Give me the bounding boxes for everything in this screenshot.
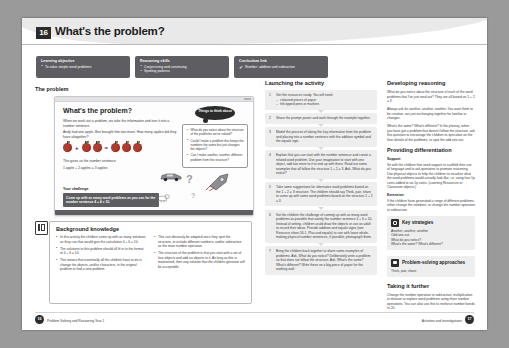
flow-arrow-icon: [318, 147, 324, 150]
panel-intro: When we work out a problem, we take the …: [63, 119, 178, 128]
learning-objective-heading: Learning objective: [41, 59, 125, 63]
plus-sign: +: [75, 145, 79, 151]
reasoning-paragraph: Always ask for another, another, another…: [387, 107, 475, 121]
list-item: Could I make a problem that keeps the nu…: [187, 139, 244, 152]
list-item: Can I make another, another, different p…: [187, 153, 244, 161]
question-mark-doodle-small: ?: [191, 192, 195, 199]
list-item: In this activity the children come up wi…: [56, 235, 147, 244]
support-heading: Support: [387, 157, 475, 161]
key-strategies-list: Another, another, another Odd one out Wh…: [391, 229, 471, 247]
step-number: 3: [269, 130, 273, 144]
step-text: Bring the children back together to shar…: [276, 249, 373, 272]
key-strategies-icon: [391, 219, 399, 227]
step-number: 6: [269, 213, 273, 240]
challenge-heading: Your challenge: [63, 187, 89, 191]
step-item: 6 Set the children the challenge of comi…: [265, 210, 377, 243]
apple-icon: [111, 143, 120, 152]
step-number: 4: [269, 153, 273, 176]
apple-icon: [122, 143, 131, 152]
step-item: 5 Take some suggestions for alternative …: [265, 182, 377, 206]
car-illustration: [159, 171, 183, 182]
question-mark-doodle: ?: [186, 173, 193, 185]
footer-text-right: Activities and investigations: [422, 319, 462, 323]
step-text: Share the prompt poster and work through…: [276, 116, 373, 121]
equals-sign: =: [105, 145, 109, 151]
apple-equation: + =: [63, 143, 142, 152]
list-item: What do you notice about the structure o…: [187, 128, 244, 136]
problem-section-label: The problem: [35, 86, 69, 92]
approaches-header: Problem-solving approaches: [391, 259, 471, 267]
list-item: Think, pair, share: [391, 269, 471, 273]
curriculum-link-box: Curriculum link ✓ Number: addition and s…: [234, 56, 328, 78]
approaches-heading: Problem-solving approaches: [402, 260, 465, 265]
differentiation-heading: Providing differentiation: [387, 147, 475, 153]
list-item: This means that essentially all the chil…: [56, 258, 147, 272]
reasoning-paragraph: What do you notice about the structure o…: [387, 90, 475, 104]
apple-icon: [93, 143, 102, 152]
taking-further-heading: Taking it further: [387, 283, 475, 289]
page-number-left: 16: [35, 315, 44, 324]
number-sentence-label: This gives us the number sentence:: [63, 159, 117, 163]
header-divider: [22, 44, 487, 45]
unit-number-badge: 16: [36, 27, 51, 39]
think-about-list-box: What do you notice about the structure o…: [182, 124, 248, 168]
list-item: What's the same? What's different?: [391, 242, 471, 246]
reasoning-skills-item: Spotting patterns: [140, 69, 224, 73]
background-knowledge-heading: Background knowledge: [56, 226, 245, 232]
page-number-right: 17: [465, 315, 474, 324]
curriculum-link-text: Number: addition and subtraction: [245, 65, 295, 69]
step-item: 7 Bring the children back together to sh…: [265, 246, 377, 275]
apple-icon: [133, 143, 142, 152]
reasoning-paragraph: What's the same? What's different? In th…: [387, 124, 475, 142]
curriculum-link-heading: Curriculum link: [239, 59, 323, 63]
footer-text-left: Problem Solving and Reasoning Year 1: [47, 319, 104, 323]
background-knowledge-column-1: In this activity the children come up wi…: [56, 235, 147, 274]
key-strategies-heading: Key strategies: [402, 220, 433, 225]
step-number: 7: [269, 249, 273, 272]
step-text: Get the resources ready. You will need: …: [276, 93, 373, 107]
learning-objective-box: Learning objective To solve simple word …: [36, 56, 130, 78]
tick-icon: ✓: [239, 65, 243, 70]
book-icon: [35, 221, 48, 235]
key-strategies-box: Key strategies Another, another, another…: [387, 216, 475, 250]
curriculum-link-item: ✓ Number: addition and subtraction: [239, 65, 323, 69]
think-about-bubble-group: Things to think about What do you notice…: [182, 106, 248, 168]
think-about-list: What do you notice about the structure o…: [187, 128, 244, 162]
step-text: Set the children the challenge of coming…: [276, 213, 373, 240]
step-item: 3 Model the process of taking the key in…: [265, 127, 377, 147]
reasoning-skills-heading: Reasoning skills: [140, 59, 224, 63]
step-text: Explain that you can start with the numb…: [276, 153, 373, 176]
background-knowledge-column-2: This can obviously be adapted once they …: [154, 235, 245, 274]
flow-arrow-icon: [318, 207, 324, 210]
list-item: The structure of the problem is that you…: [154, 251, 245, 269]
taking-further-text: Change the number operation to subtracti…: [387, 293, 475, 311]
panel-top-bar: [55, 97, 253, 102]
extension-heading: Extension: [387, 193, 475, 197]
flow-arrow-icon: [318, 110, 324, 113]
flow-arrow-icon: [318, 243, 324, 246]
flow-arrow-icon: [318, 124, 324, 127]
step-text: Take some suggestions for alternative wo…: [276, 185, 373, 203]
dog-illustration: [155, 193, 171, 203]
projectable-problem-panel: What's the problem? When we work out a p…: [54, 96, 254, 216]
flow-arrow-icon: [318, 179, 324, 182]
right-column: Developing reasoning What do you notice …: [387, 80, 475, 314]
background-knowledge-box: Background knowledge In this activity th…: [49, 221, 252, 304]
number-sentence: 1 apple + 2 apples = 3 apples: [63, 166, 108, 170]
learning-objective-item: To solve simple word problems: [41, 65, 125, 69]
problem-solving-approaches-box: Problem-solving approaches Think, pair, …: [387, 256, 475, 277]
step-number: 1: [269, 93, 273, 107]
developing-reasoning-heading: Developing reasoning: [387, 80, 475, 86]
support-text: Sit with the children that need support …: [387, 163, 475, 190]
step-text: Model the process of taking the key info…: [276, 130, 373, 144]
apple-icon: [82, 143, 91, 152]
rocket-illustration: [205, 171, 233, 191]
step-item: 2 Share the prompt poster and work throu…: [265, 113, 377, 124]
launching-activity-column: Launching the activity 1 Get the resourc…: [265, 80, 377, 278]
step-number: 5: [269, 185, 273, 203]
reasoning-skills-box: Reasoning skills Conjecturing and convin…: [135, 56, 229, 78]
key-strategies-header: Key strategies: [391, 219, 471, 227]
step-main-text: Get the resources ready. You will need:: [276, 93, 333, 97]
apple-icon: [63, 143, 72, 152]
panel-question: Andy had one apple. Ben brought him two …: [63, 130, 178, 139]
